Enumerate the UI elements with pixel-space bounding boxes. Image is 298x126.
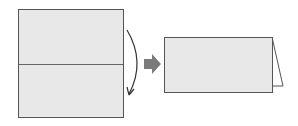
- folding-diagram: [0, 0, 298, 126]
- fold-curve-arrow-icon: [127, 30, 137, 95]
- folded-card: [165, 37, 284, 93]
- unfolded-square: [19, 10, 124, 118]
- next-step-arrow-icon: [144, 54, 161, 74]
